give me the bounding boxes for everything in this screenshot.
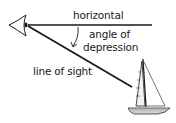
angle-arc: [71, 27, 78, 47]
eye-icon: [9, 15, 28, 36]
angle-label-line1: angle of: [89, 29, 130, 40]
line-of-sight-label: line of sight: [33, 66, 92, 77]
horizontal-label: horizontal: [73, 10, 123, 21]
sailboat-icon: [128, 59, 170, 114]
angle-label-line2: depression: [83, 42, 138, 53]
